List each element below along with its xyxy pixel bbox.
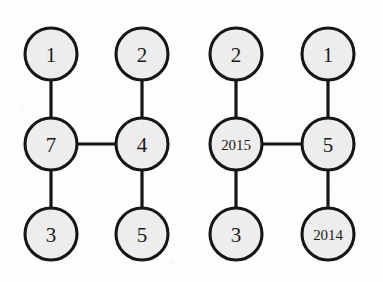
graph-canvas: 127435212015532014 (0, 0, 383, 282)
nodes-layer: 127435212015532014 (25, 28, 354, 260)
graph-node[interactable]: 5 (302, 118, 354, 170)
node-label: 3 (231, 223, 242, 247)
node-label: 1 (46, 43, 57, 67)
node-label: 2 (137, 43, 148, 67)
graph-node[interactable]: 7 (25, 118, 77, 170)
node-label: 1 (323, 43, 334, 67)
edges-layer (51, 80, 328, 208)
node-label: 2015 (221, 137, 251, 153)
node-label: 5 (137, 223, 148, 247)
graph-node[interactable]: 1 (25, 28, 77, 80)
node-label: 2014 (313, 227, 343, 243)
node-label: 3 (46, 223, 57, 247)
graph-node[interactable]: 2015 (210, 118, 262, 170)
graph-node[interactable]: 2 (210, 28, 262, 80)
node-label: 2 (231, 43, 242, 67)
graph-node[interactable]: 1 (302, 28, 354, 80)
graph-node[interactable]: 2 (116, 28, 168, 80)
graph-node[interactable]: 3 (25, 208, 77, 260)
graph-node[interactable]: 4 (116, 118, 168, 170)
node-label: 4 (137, 133, 148, 157)
node-label: 7 (46, 133, 57, 157)
graph-node[interactable]: 2014 (302, 208, 354, 260)
graph-node[interactable]: 3 (210, 208, 262, 260)
node-label: 5 (323, 133, 334, 157)
graph-node[interactable]: 5 (116, 208, 168, 260)
graph-figure: 127435212015532014 (0, 0, 383, 282)
